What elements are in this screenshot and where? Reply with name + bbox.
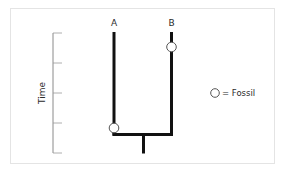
time-axis: Time <box>37 33 62 153</box>
legend-text: = Fossil <box>222 88 255 98</box>
fossil-a-marker <box>109 123 119 133</box>
phylogenetic-tree-diagram: Time A B = Fossil <box>0 0 284 171</box>
legend: = Fossil <box>211 88 256 98</box>
taxon-label-b: B <box>168 18 174 28</box>
legend-fossil-icon <box>211 89 220 98</box>
tree-branches <box>113 32 174 154</box>
fossil-b-marker <box>167 42 177 52</box>
time-axis-label: Time <box>37 82 47 105</box>
taxon-label-a: A <box>111 18 118 28</box>
fossils <box>109 42 176 133</box>
